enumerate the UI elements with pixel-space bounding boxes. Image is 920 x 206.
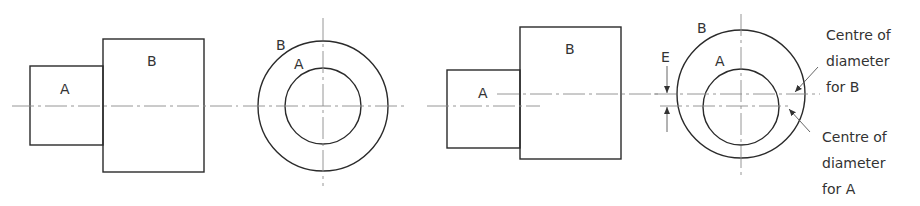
label-a: A [715, 53, 725, 69]
label-b: B [565, 41, 575, 57]
leader-centre-b [795, 67, 818, 92]
leader-centre-a [789, 109, 810, 132]
label-b: B [147, 53, 157, 69]
left-end-view: B A [243, 18, 405, 186]
note-centre-b: Centre of diameter for B [826, 27, 895, 95]
label-b: B [697, 20, 707, 36]
label-a: A [60, 81, 70, 97]
cylinder-a-outline [30, 66, 103, 145]
label-e: E [661, 49, 670, 65]
left-side-view: A B [12, 39, 238, 172]
cylinder-a-outline [447, 70, 520, 148]
right-side-view: A B [427, 27, 660, 159]
note-centre-a: Centre of diameter for A [822, 129, 891, 197]
right-end-view: E B A Centre of diameter for B Centre of… [654, 14, 895, 197]
eccentricity-diagram: A B B A A B E B A Centr [0, 0, 920, 206]
label-b: B [276, 37, 286, 53]
label-a: A [478, 85, 488, 101]
label-a: A [294, 56, 304, 72]
